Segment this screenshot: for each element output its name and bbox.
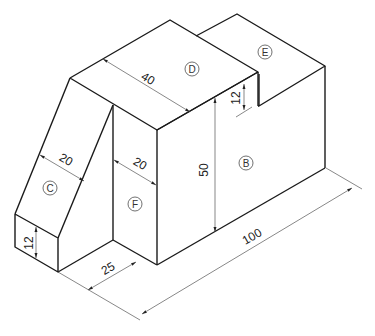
face-label-e: E [258, 45, 272, 59]
svg-text:F: F [132, 199, 138, 210]
dim-f-width: 20 [131, 154, 150, 173]
dimension-lines [36, 59, 362, 320]
face-label-b: B [239, 156, 253, 170]
svg-text:D: D [188, 64, 195, 75]
svg-text:E: E [262, 47, 269, 58]
svg-text:B: B [243, 158, 250, 169]
dim-base-length: 25 [99, 259, 118, 278]
dim-top-depth: 40 [139, 69, 158, 88]
dim-step-height: 12 [229, 91, 243, 105]
dim-base-height: 12 [22, 236, 36, 250]
isometric-drawing: 40 12 50 20 20 12 25 100 D E B C F [0, 0, 375, 336]
face-label-f: F [128, 197, 142, 211]
object-outline [15, 14, 325, 272]
dim-height: 50 [197, 163, 211, 177]
svg-text:C: C [46, 183, 53, 194]
face-label-c: C [43, 181, 57, 195]
dim-total-length: 100 [240, 225, 265, 247]
face-label-d: D [185, 62, 199, 76]
